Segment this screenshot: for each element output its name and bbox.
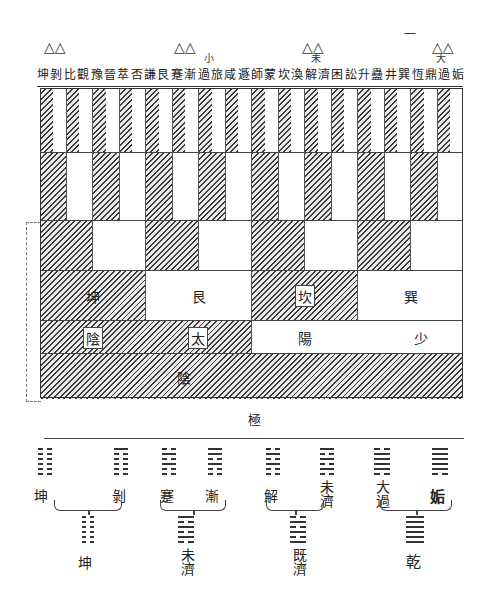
hexagram-symbol [320,448,334,475]
header-label: 剝 [50,64,61,86]
header-label: 鼎 [425,64,436,86]
cell [146,153,173,221]
annotation-not: 未 [311,54,321,64]
trigram-label: 坎 [295,285,315,307]
header-label: 遯 [238,64,249,86]
header-label: 比 [64,64,75,86]
header-label: 漸 [184,64,195,86]
header-label: 否 [131,64,142,86]
cell [305,153,332,221]
result-hexagram-name: 坤 [78,552,92,572]
cell [279,153,306,221]
hexagram-symbol [266,448,280,475]
cell [199,221,252,271]
cell [173,88,200,152]
row-level-6: 陰 [40,353,463,399]
hexagram-symbol [162,448,176,475]
trigram-cell-kan: 坎 [252,271,358,321]
trigram-cell-gen: 艮 [146,271,252,321]
row-level-2 [40,152,463,221]
cell [438,88,464,152]
triangle-marker-group: △△ [44,40,66,54]
annotation-small: 小 [204,54,214,64]
cell [226,88,253,152]
header-label: 師 [251,64,262,86]
lesser-label: 少 [412,328,430,348]
hexagram-symbol [374,448,390,475]
cell [385,153,412,221]
row-level-3 [40,220,463,271]
trigram-cell-kun: 坤 [40,271,146,321]
yin-label: 陰 [83,327,103,349]
row-level-4: 坤 艮 坎 巽 [40,270,463,321]
header-label: 萃 [117,64,128,86]
cell [226,153,253,221]
trigram-cell-xun: 巽 [358,271,463,321]
result-hexagram-name: 乾 [406,550,421,571]
cell [252,88,279,152]
supreme-ultimate-row: 極 [44,398,464,439]
header-label: 豫 [91,64,102,86]
yin-label: 陰 [175,367,193,387]
greater-yin-cell: 陰 太 [40,321,252,354]
trigram-label: 艮 [190,286,208,306]
cell [305,88,332,152]
triangle-marker-group: △△ [174,40,196,54]
header-label: 恆 [412,64,423,86]
cell [40,153,67,221]
cell [173,153,200,221]
cell [40,221,93,271]
cell [146,221,199,271]
hexagram-symbol [432,448,448,475]
hexagram-symbol [82,516,94,543]
cell [358,153,385,221]
hexagram-symbol [178,516,194,543]
cell [411,221,463,271]
cell [120,153,147,221]
trigram-label: 巽 [402,286,420,306]
cell [146,88,173,152]
result-hexagram-name: 既濟 [291,548,307,576]
pair-brace [266,500,324,511]
cell [93,153,120,221]
cell [385,88,412,152]
header-label: 蒙 [264,64,275,86]
header-label: 解 [305,64,316,86]
yin-cell: 陰 [40,354,463,399]
cell [67,88,94,152]
ji-label: 極 [248,409,261,428]
header-label: 巽 [398,64,409,86]
cell [438,153,464,221]
lesser-yang-cell: 陽 少 [252,321,463,354]
header-label: 過 [198,64,209,86]
header-label: 晉 [104,64,115,86]
yang-label: 陽 [296,328,314,348]
row-level-5: 陰 太 陽 少 [40,320,463,354]
header-label: 艮 [157,64,168,86]
header-label: 井 [385,64,396,86]
hexagram-symbol [38,448,52,475]
header-label: 過 [438,64,449,86]
header-label: 旅 [211,64,222,86]
header-label: 觀 [77,64,88,86]
cell [93,221,146,271]
hexagram-grid: 坤 艮 坎 巽 陰 太 陽 少 陰 [40,88,463,398]
cell [411,88,438,152]
trigram-label: 坤 [84,286,102,306]
pair-brace [380,500,452,511]
hexagram-symbol [208,448,222,475]
hexagram-symbol [114,448,128,475]
header-label: 姤 [452,64,463,86]
header-label: 蠱 [371,64,382,86]
cell [279,88,306,152]
pair-brace [160,500,226,511]
cell [332,88,359,152]
result-hexagram-name: 未濟 [179,548,195,576]
header-label: 蹇 [171,64,182,86]
header-label: 謙 [144,64,155,86]
cell [252,221,305,271]
annotation-great: 大 [436,54,446,64]
top-mark: 一 [404,30,416,40]
triangle-marker-group: △△ [432,40,454,54]
header-label: 困 [331,64,342,86]
